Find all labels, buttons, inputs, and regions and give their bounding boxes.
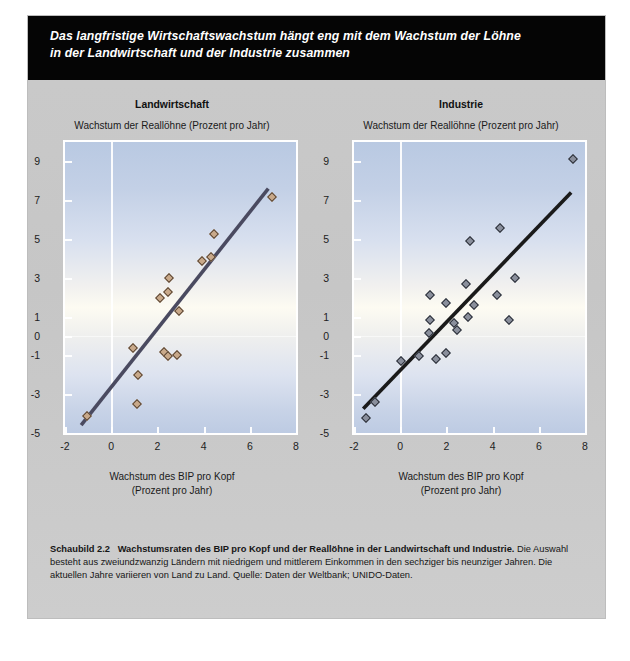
x-tick-label: 8 xyxy=(573,440,597,452)
chart-title-industrie: Industrie xyxy=(317,99,605,110)
headline-line-1: Das langfristige Wirtschaftswachstum hän… xyxy=(50,28,580,45)
x-tick-label: -2 xyxy=(342,440,366,452)
chart-title-landwirtschaft: Landwirtschaft xyxy=(28,99,316,110)
headline-bar: Das langfristige Wirtschaftswachstum hän… xyxy=(28,16,605,80)
y-tick-label: -5 xyxy=(303,427,329,439)
plot-inner-industrie xyxy=(354,142,585,433)
chart-xlabel-line2-industrie: (Prozent pro Jahr) xyxy=(317,484,605,498)
chart-industrie: Industrie Wachstum der Reallöhne (Prozen… xyxy=(317,80,605,530)
caption-bold-title: Wachstumsraten des BIP pro Kopf und der … xyxy=(118,544,515,554)
x-tick-label: 0 xyxy=(388,440,412,452)
y-tick-label: -1 xyxy=(303,349,329,361)
x-tick-label: -2 xyxy=(53,440,77,452)
chart-xlabel-line1-industrie: Wachstum des BIP pro Kopf xyxy=(317,470,605,484)
y-tick-label: 3 xyxy=(14,272,40,284)
x-tick-label: 2 xyxy=(145,440,169,452)
figure-page: Das langfristige Wirtschaftswachstum hän… xyxy=(0,0,630,661)
headline-line-2: in der Landwirtschaft und der Industrie … xyxy=(50,45,580,62)
plot-area-landwirtschaft xyxy=(63,140,298,435)
y-tick-label: 7 xyxy=(303,194,329,206)
x-tick-label: 6 xyxy=(238,440,262,452)
chart-ylabel-landwirtschaft: Wachstum der Reallöhne (Prozent pro Jahr… xyxy=(28,120,316,131)
y-tick-label: 7 xyxy=(14,194,40,206)
y-tick-label: -3 xyxy=(14,388,40,400)
y-tick-label: 3 xyxy=(303,272,329,284)
x-tick-label: 2 xyxy=(434,440,458,452)
x-tick-label: 6 xyxy=(527,440,551,452)
chart-landwirtschaft: Landwirtschaft Wachstum der Reallöhne (P… xyxy=(28,80,316,530)
x-tick-label: 0 xyxy=(99,440,123,452)
y-tick-label: -3 xyxy=(303,388,329,400)
x-tick-label: 4 xyxy=(192,440,216,452)
chart-ylabel-industrie: Wachstum der Reallöhne (Prozent pro Jahr… xyxy=(317,120,605,131)
y-tick-label: 5 xyxy=(303,233,329,245)
y-tick-label: 0 xyxy=(14,330,40,342)
figure-caption: Schaubild 2.2 Wachstumsraten des BIP pro… xyxy=(50,543,586,583)
y-tick-label: 1 xyxy=(303,311,329,323)
x-tick-label: 8 xyxy=(284,440,308,452)
y-tick-label: -5 xyxy=(14,427,40,439)
trendline xyxy=(354,142,585,433)
caption-figure-number: Schaubild 2.2 xyxy=(50,544,110,554)
y-tick-label: 9 xyxy=(303,155,329,167)
x-tick-label: 4 xyxy=(481,440,505,452)
y-tick-label: 5 xyxy=(14,233,40,245)
plot-area-industrie xyxy=(352,140,587,435)
plot-inner-landwirtschaft xyxy=(65,142,296,433)
chart-xlabel-line1-landwirtschaft: Wachstum des BIP pro Kopf xyxy=(28,470,316,484)
y-tick-label: 9 xyxy=(14,155,40,167)
y-tick-label: -1 xyxy=(14,349,40,361)
y-tick-label: 1 xyxy=(14,311,40,323)
chart-xlabel-line2-landwirtschaft: (Prozent pro Jahr) xyxy=(28,484,316,498)
y-tick-label: 0 xyxy=(303,330,329,342)
headline-text: Das langfristige Wirtschaftswachstum hän… xyxy=(50,28,580,62)
trendline xyxy=(65,142,296,433)
figure-panel: Das langfristige Wirtschaftswachstum hän… xyxy=(28,16,605,618)
